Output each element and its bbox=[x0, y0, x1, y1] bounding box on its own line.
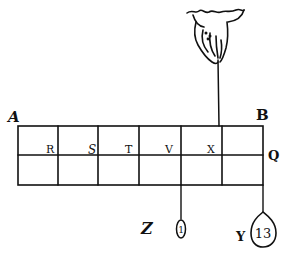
lever-diagram: A B Q R S T V X Z 1 Y 13 bbox=[0, 0, 290, 253]
label-b: B bbox=[256, 106, 269, 124]
hand-icon bbox=[187, 9, 244, 63]
suspension-string bbox=[218, 60, 219, 126]
label-r: R bbox=[46, 143, 55, 156]
y-weight-value: 13 bbox=[255, 226, 272, 241]
label-y: Y bbox=[235, 229, 246, 244]
label-s: S bbox=[88, 143, 96, 157]
label-a: A bbox=[6, 108, 20, 126]
beam-grid bbox=[18, 126, 263, 185]
label-t: T bbox=[125, 143, 133, 156]
label-v: V bbox=[164, 143, 174, 156]
label-z: Z bbox=[140, 219, 154, 238]
label-q: Q bbox=[268, 148, 279, 163]
z-weight-value: 1 bbox=[178, 225, 184, 235]
label-x: X bbox=[207, 143, 215, 156]
